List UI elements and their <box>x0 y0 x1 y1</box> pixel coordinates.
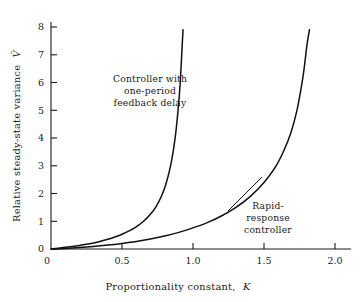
annotation-delay-line-2: one-period <box>124 85 176 96</box>
y-tick-label-6: 6 <box>38 77 44 88</box>
y-tick-label-2: 2 <box>38 188 44 199</box>
x-tick-label-0.5: 0.5 <box>114 255 129 266</box>
x-axis-label: Proportionality constant, K <box>105 281 250 292</box>
y-tick-label-0: 0 <box>38 243 44 254</box>
x-tick-label-1.0: 1.0 <box>185 255 200 266</box>
y-tick-label-5: 5 <box>38 105 44 116</box>
y-tick-label-4: 4 <box>38 132 44 143</box>
x-tick-label-2.0: 2.0 <box>327 255 342 266</box>
y-axis-label-symbol: V̂ <box>11 49 22 57</box>
x-tick-marks <box>122 243 335 249</box>
y-tick-label-3: 3 <box>38 160 44 171</box>
y-axis-label-text: Relative steady-state variance <box>11 65 22 222</box>
annotation-rapid-line-1: Rapid- <box>252 200 284 211</box>
chart-figure: 0 1 2 3 4 5 6 7 8 0 0.5 1.0 1.5 2.0 Cont… <box>0 0 360 302</box>
y-tick-label-8: 8 <box>38 21 44 32</box>
y-tick-label-7: 7 <box>38 49 44 60</box>
curve-controller-with-delay <box>51 30 183 249</box>
y-tick-label-1: 1 <box>38 216 44 227</box>
annotation-delay-line-3: feedback delay <box>114 97 187 108</box>
x-tick-label-1.5: 1.5 <box>256 255 271 266</box>
y-tick-labels: 0 1 2 3 4 5 6 7 8 <box>38 21 44 254</box>
annotation-delay: Controller with one-period feedback dela… <box>113 73 187 108</box>
y-axis-label: Relative steady-state variance V̂ <box>11 49 22 222</box>
svg-text:Relative steady-state variance: Relative steady-state variance V̂ <box>11 49 22 222</box>
annotation-rapid-line-3: controller <box>244 224 292 235</box>
svg-text:Proportionality constant,: Proportionality constant, K <box>105 281 250 292</box>
annotation-rapid-line-2: response <box>246 212 290 223</box>
chart-canvas: 0 1 2 3 4 5 6 7 8 0 0.5 1.0 1.5 2.0 Cont… <box>0 0 360 302</box>
x-axis-label-text: Proportionality constant, <box>105 281 235 292</box>
annotation-rapid: Rapid- response controller <box>244 200 292 235</box>
annotation-delay-line-1: Controller with <box>113 73 187 84</box>
x-tick-labels: 0 0.5 1.0 1.5 2.0 <box>44 255 343 266</box>
x-axis-label-symbol: K <box>242 281 251 292</box>
x-tick-label-0: 0 <box>44 255 50 266</box>
y-tick-marks <box>51 27 57 249</box>
